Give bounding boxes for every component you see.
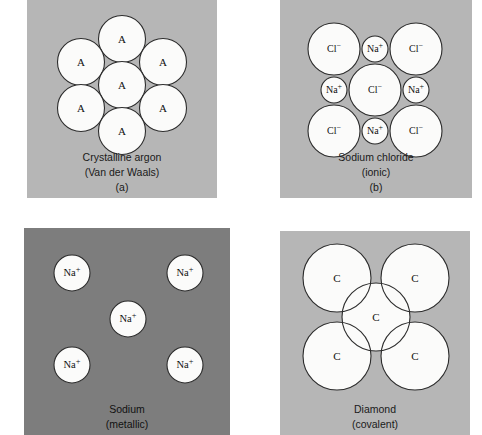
atom-charge: + xyxy=(338,82,343,91)
panel-caption-line: Sodium chloride xyxy=(338,151,413,163)
crystal-bonding-figure: AAAAAAACrystalline argon(Van der Waals)(… xyxy=(0,0,482,435)
panel-d-canvas: CCCCCDiamond(covalent) xyxy=(280,231,470,435)
panel-a-canvas: AAAAAAACrystalline argon(Van der Waals)(… xyxy=(27,0,217,198)
atom-charge: + xyxy=(189,357,194,366)
atom-charge: + xyxy=(379,41,384,50)
panel-c-canvas: Na+Na+Na+Na+Na+Sodium(metallic) xyxy=(24,228,230,435)
panel-caption-line: Sodium xyxy=(109,403,145,415)
atom-label: C xyxy=(333,349,340,361)
atom-charge: − xyxy=(418,123,423,132)
atom-charge: + xyxy=(132,311,137,320)
panel-sodium-metallic: Na+Na+Na+Na+Na+Sodium(metallic) xyxy=(24,228,230,435)
atom-charge: + xyxy=(379,123,384,132)
panel-sodium-chloride: Cl−Cl−Cl−Cl−Cl−Na+Na+Na+Na+Sodium chlori… xyxy=(280,0,472,198)
atom-charge: + xyxy=(189,265,194,274)
atom-label: A xyxy=(118,124,126,136)
panel-caption-line: (Van der Waals) xyxy=(85,166,160,178)
atom-charge: − xyxy=(336,41,341,50)
atom-charge: − xyxy=(418,41,423,50)
panel-caption-line: Diamond xyxy=(354,403,396,415)
panel-caption-line: (a) xyxy=(116,181,129,193)
atom-label: C xyxy=(411,271,418,283)
atom-label: C xyxy=(372,310,379,322)
atom-label: A xyxy=(159,101,167,113)
atom-label: A xyxy=(118,78,126,90)
panel-diamond-covalent: CCCCCDiamond(covalent) xyxy=(280,231,470,435)
panel-caption-line: (covalent) xyxy=(352,418,398,430)
atom-charge: − xyxy=(336,123,341,132)
atom-label: C xyxy=(411,349,418,361)
atom-charge: + xyxy=(76,357,81,366)
panel-caption-line: (b) xyxy=(370,181,383,193)
atom-label: A xyxy=(159,55,167,67)
atom-label: A xyxy=(77,55,85,67)
atom-charge: − xyxy=(377,82,382,91)
atom-label: C xyxy=(333,271,340,283)
panel-caption-line: Crystalline argon xyxy=(83,151,162,163)
atom-label: A xyxy=(118,32,126,44)
panel-caption-line: (metallic) xyxy=(106,418,149,430)
panel-caption-line: (ionic) xyxy=(362,166,391,178)
panel-b-canvas: Cl−Cl−Cl−Cl−Cl−Na+Na+Na+Na+Sodium chlori… xyxy=(280,0,472,198)
atom-charge: + xyxy=(76,265,81,274)
atom-charge: + xyxy=(420,82,425,91)
atom-label: A xyxy=(77,101,85,113)
panel-crystalline-argon: AAAAAAACrystalline argon(Van der Waals)(… xyxy=(27,0,217,198)
